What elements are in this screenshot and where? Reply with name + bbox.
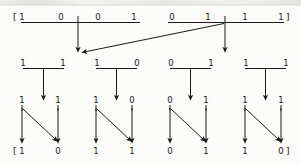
level3-g3-top-bit-0: 0 [167,96,172,105]
level1-close-bracket: ] [286,13,290,22]
level2-g1-bit-0: 1 [20,59,25,68]
level3-g1-top-bit-1: 1 [55,96,60,105]
level3-g2-top-bit-1: 0 [129,96,134,105]
level2-g3-bit-0: 0 [168,59,173,68]
level1-bit-5: 1 [205,13,210,22]
level3-g1-bottom-bit-0: 1 [19,147,24,156]
scan-artifact-top-line [0,4,301,6]
level3-g1-top-bit-0: 1 [19,96,24,105]
level3-g4-top-bit-1: 1 [278,96,283,105]
level2-g3-bit-1: 1 [208,59,213,68]
level1-bit-4: 0 [169,13,174,22]
level3-g2-bottom-bit-1: 1 [129,147,134,156]
level2-g4-bit-1: 1 [283,59,288,68]
level3-g1-bottom-bit-1: 0 [55,147,60,156]
level3-g2-diagonal [97,109,130,140]
binary-reduction-diagram: [ 1 0 0 1 0 1 1 1 ] 1 1 1 0 0 1 1 1 1 1 … [0,0,301,165]
level1-bit-1: 0 [58,13,63,22]
level2-g4-bit-0: 1 [243,59,248,68]
level3-open-bracket: [ [13,147,17,156]
level3-close-bracket: ] [286,147,290,156]
level1-bit-2: 0 [95,13,100,22]
level3-g3-bottom-bit-0: 0 [167,147,172,156]
level1-diagonal-arrow [84,24,224,53]
level1-bit-3: 1 [131,13,136,22]
level1-bit-7: 1 [278,13,283,22]
level3-g4-top-bit-0: 1 [242,96,247,105]
diagram-strokes [0,0,301,165]
level3-g3-bottom-bit-1: 1 [203,147,208,156]
level3-g2-top-bit-0: 1 [93,96,98,105]
level3-g3-top-bit-1: 1 [203,96,208,105]
level2-g1-bit-1: 1 [60,59,65,68]
level2-g2-bit-1: 0 [134,59,139,68]
level1-bit-6: 1 [242,13,247,22]
level2-g2-bit-0: 1 [94,59,99,68]
level3-g3-diagonal [171,109,204,140]
level3-g4-diagonal [246,109,279,140]
level1-open-bracket: [ [13,13,17,22]
level3-g4-bottom-bit-0: 1 [242,147,247,156]
level1-bit-0: 1 [19,13,24,22]
level3-g1-diagonal [23,109,56,140]
level3-g2-bottom-bit-0: 1 [93,147,98,156]
level3-g4-bottom-bit-1: 0 [278,147,283,156]
